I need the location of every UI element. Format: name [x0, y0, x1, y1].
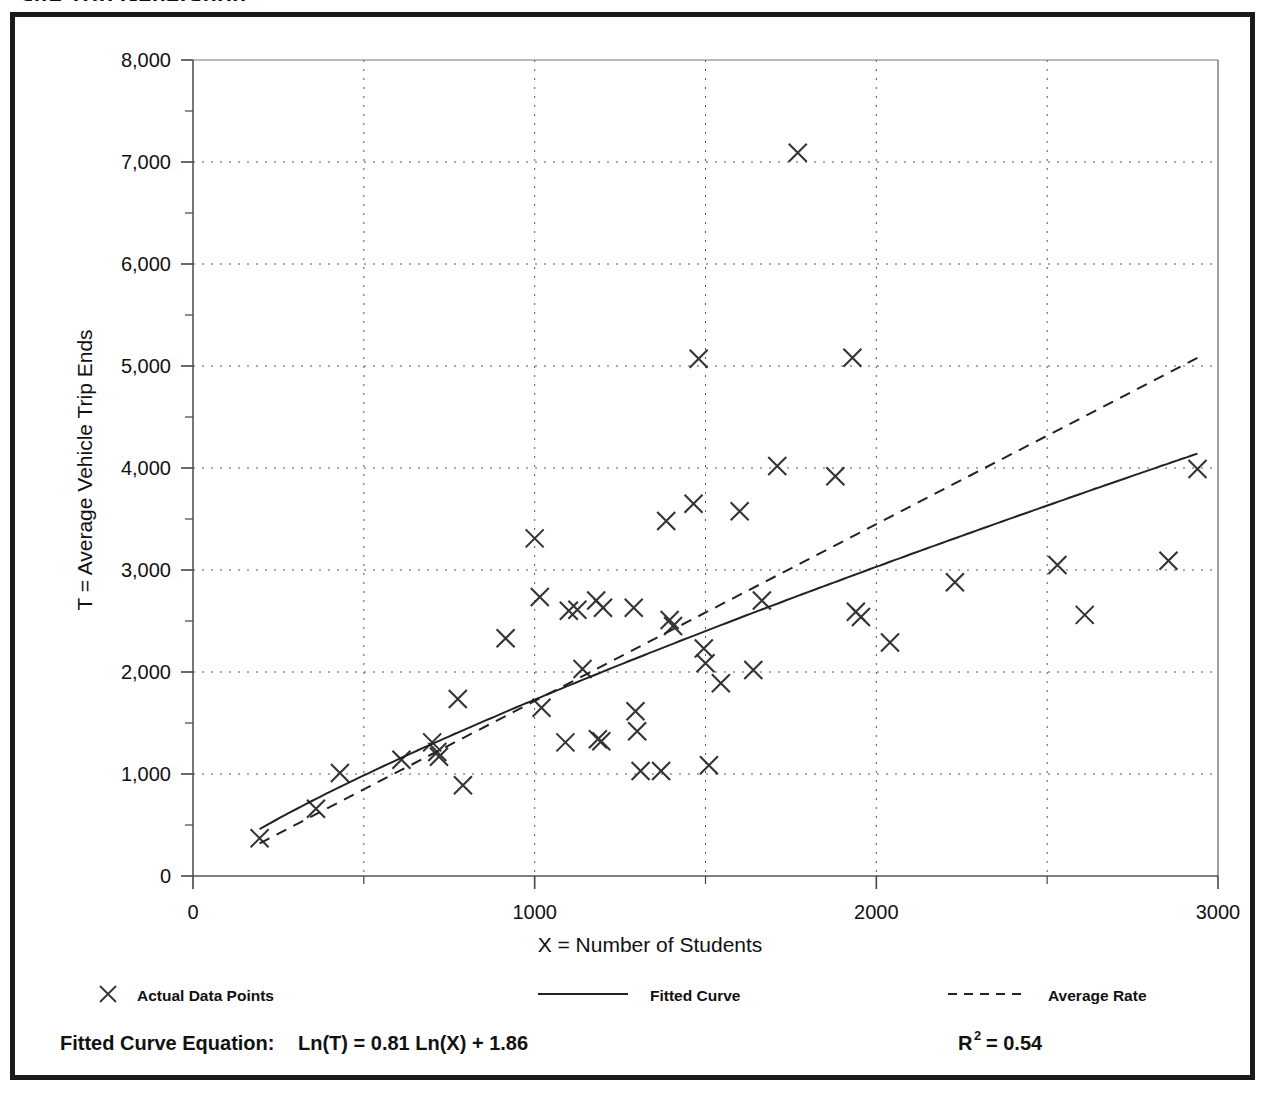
y-tick-label: 1,000: [121, 763, 171, 785]
legend-item-actual-data-points[interactable]: Actual Data Points: [100, 986, 274, 1004]
y-axis-title: T = Average Vehicle Trip Ends: [73, 329, 96, 610]
data-point-marker: [946, 573, 964, 591]
x-marker-icon: [100, 986, 116, 1002]
legend-label-2: Average Rate: [1048, 987, 1147, 1004]
r-squared-value: = 0.54: [986, 1032, 1043, 1054]
tick-marks-group: [181, 60, 1218, 889]
x-tick-label: 2000: [854, 901, 899, 923]
data-point-marker: [449, 690, 467, 708]
legend-item-average-rate[interactable]: Average Rate: [948, 987, 1147, 1004]
data-point-marker: [712, 674, 730, 692]
fitted-curve-equation-formula: Ln(T) = 0.81 Ln(X) + 1.86: [298, 1032, 528, 1054]
y-tick-label: 2,000: [121, 661, 171, 683]
data-point-marker: [1048, 556, 1066, 574]
equation-row: Fitted Curve Equation: Ln(T) = 0.81 Ln(X…: [60, 1028, 1043, 1054]
data-point-marker: [1076, 606, 1094, 624]
data-point-marker: [1159, 552, 1177, 570]
average-rate-line: [260, 358, 1198, 844]
y-tick-label: 3,000: [121, 559, 171, 581]
chart-legend: Actual Data Points Fitted Curve Average …: [100, 986, 1147, 1004]
data-point-marker: [626, 702, 644, 720]
scatter-plot-svg: 01,0002,0003,0004,0005,0006,0007,0008,00…: [0, 0, 1275, 1100]
fitted-curve-line: [260, 454, 1198, 829]
legend-label-0: Actual Data Points: [137, 987, 274, 1004]
data-point-marker: [632, 762, 650, 780]
gridlines-group: [193, 60, 1218, 876]
data-point-marker: [826, 467, 844, 485]
r-squared-exponent: 2: [974, 1028, 981, 1043]
data-point-marker: [628, 722, 646, 740]
data-point-marker: [768, 457, 786, 475]
fitted-curve-equation-label: Fitted Curve Equation:: [60, 1032, 274, 1054]
data-point-marker: [690, 350, 708, 368]
legend-label-1: Fitted Curve: [650, 987, 741, 1004]
y-tick-label: 0: [160, 865, 171, 887]
data-point-marker: [497, 629, 515, 647]
data-point-marker: [731, 502, 749, 520]
chart-figure: Site Trip Generation 01,0002,0003,0004,0…: [0, 0, 1275, 1100]
data-point-marker: [700, 756, 718, 774]
data-point-marker: [843, 349, 861, 367]
data-points-group: [251, 144, 1207, 847]
tick-labels-group: 01,0002,0003,0004,0005,0006,0007,0008,00…: [121, 49, 1240, 923]
data-point-marker: [625, 599, 643, 617]
x-tick-label: 3000: [1196, 901, 1241, 923]
x-tick-label: 0: [187, 901, 198, 923]
y-tick-label: 7,000: [121, 151, 171, 173]
data-point-marker: [1189, 460, 1207, 478]
y-tick-label: 6,000: [121, 253, 171, 275]
x-axis-title: X = Number of Students: [538, 933, 763, 956]
data-point-marker: [331, 764, 349, 782]
data-point-marker: [556, 733, 574, 751]
y-tick-label: 4,000: [121, 457, 171, 479]
data-point-marker: [526, 529, 544, 547]
y-tick-label: 8,000: [121, 49, 171, 71]
data-point-marker: [652, 762, 670, 780]
data-point-marker: [697, 654, 715, 672]
y-tick-label: 5,000: [121, 355, 171, 377]
data-point-marker: [594, 599, 612, 617]
data-point-marker: [789, 144, 807, 162]
data-point-marker: [251, 829, 269, 847]
x-tick-label: 1000: [512, 901, 557, 923]
data-point-marker: [881, 633, 899, 651]
data-point-marker: [852, 608, 870, 626]
series-group: [251, 144, 1207, 847]
data-point-marker: [657, 512, 675, 530]
data-point-marker: [531, 588, 549, 606]
r-squared-symbol: R: [958, 1032, 973, 1054]
data-point-marker: [454, 776, 472, 794]
plot-area-wrapper: 01,0002,0003,0004,0005,0006,0007,0008,00…: [0, 0, 1275, 1100]
legend-item-fitted-curve[interactable]: Fitted Curve: [538, 987, 741, 1004]
data-point-marker: [744, 661, 762, 679]
data-point-marker: [661, 611, 679, 629]
data-point-marker: [685, 495, 703, 513]
